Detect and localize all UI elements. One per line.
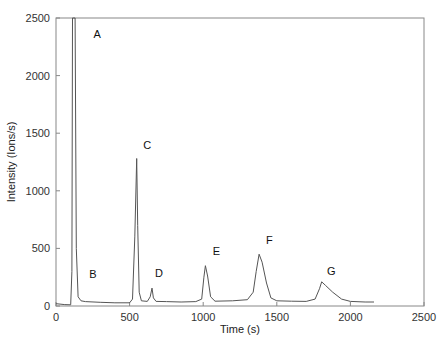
peak-label-b: B <box>89 268 96 280</box>
y-tick-label: 500 <box>32 242 50 254</box>
x-tick-label: 500 <box>120 311 138 323</box>
peak-label-f: F <box>266 234 273 246</box>
y-axis-ticks: 05001000150020002500 <box>26 12 60 312</box>
x-tick-label: 1000 <box>191 311 215 323</box>
x-axis-ticks: 05001000150020002500 <box>53 302 436 323</box>
x-tick-label: 2000 <box>338 311 362 323</box>
y-axis-label: Intensity (Ions/s) <box>5 122 17 203</box>
peak-label-d: D <box>155 267 163 279</box>
chromatogram-chart: 05001000150020002500 0500100015002000250… <box>0 0 443 347</box>
y-tick-label: 1000 <box>26 185 50 197</box>
y-tick-label: 2500 <box>26 12 50 24</box>
y-tick-label: 1500 <box>26 127 50 139</box>
x-tick-label: 1500 <box>265 311 289 323</box>
peak-label-a: A <box>94 28 102 40</box>
peak-label-g: G <box>327 265 336 277</box>
x-tick-label: 2500 <box>412 311 436 323</box>
peak-label-c: C <box>143 139 151 151</box>
x-axis-label: Time (s) <box>220 323 260 335</box>
signal-line <box>56 18 374 305</box>
y-tick-label: 0 <box>44 300 50 312</box>
peak-label-e: E <box>213 245 220 257</box>
peak-labels: ABCDEFG <box>89 28 335 281</box>
x-tick-label: 0 <box>53 311 59 323</box>
y-tick-label: 2000 <box>26 70 50 82</box>
plot-frame <box>56 18 424 306</box>
